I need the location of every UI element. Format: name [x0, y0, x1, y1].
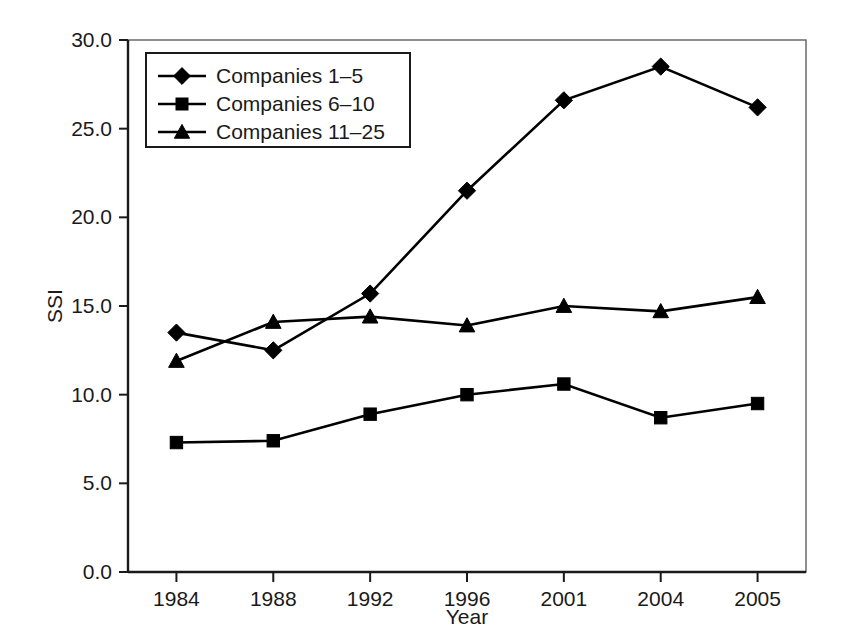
x-axis-title: Year [446, 605, 488, 628]
data-point-marker [364, 408, 376, 420]
data-point-marker [265, 342, 282, 359]
legend-label: Companies 11–25 [216, 120, 385, 143]
data-point-marker [170, 436, 182, 448]
legend-label: Companies 1–5 [216, 64, 363, 87]
data-point-marker [749, 99, 766, 116]
y-axis-title: SSI [43, 289, 66, 323]
data-point-marker [169, 353, 185, 367]
y-tick-label: 5.0 [83, 471, 112, 494]
x-tick-label: 2004 [637, 587, 684, 610]
line-chart: 0.05.010.015.020.025.030.0 1984198819921… [0, 0, 844, 641]
x-tick-label: 1992 [347, 587, 394, 610]
series-3 [169, 289, 766, 367]
chart-container: 0.05.010.015.020.025.030.0 1984198819921… [0, 0, 844, 641]
y-tick-label: 30.0 [71, 28, 112, 51]
y-tick-label: 20.0 [71, 205, 112, 228]
y-tick-label: 15.0 [71, 294, 112, 317]
data-point-marker [267, 435, 279, 447]
legend-marker-icon [176, 98, 188, 110]
data-point-marker [558, 378, 570, 390]
data-point-marker [655, 412, 667, 424]
data-point-marker [461, 388, 473, 400]
chart-legend: Companies 1–5Companies 6–10Companies 11–… [146, 53, 410, 147]
data-point-marker [168, 324, 185, 341]
x-tick-label: 1984 [153, 587, 200, 610]
legend-label: Companies 6–10 [216, 92, 375, 115]
y-axis-ticks: 0.05.010.015.020.025.030.0 [71, 28, 128, 583]
x-tick-label: 2005 [734, 587, 781, 610]
x-tick-label: 2001 [540, 587, 587, 610]
x-tick-label: 1988 [250, 587, 297, 610]
y-tick-label: 25.0 [71, 117, 112, 140]
series-2 [170, 378, 764, 449]
data-point-marker [652, 58, 669, 75]
data-point-marker [750, 289, 766, 303]
y-tick-label: 10.0 [71, 383, 112, 406]
data-point-marker [751, 397, 763, 409]
y-tick-label: 0.0 [83, 560, 112, 583]
